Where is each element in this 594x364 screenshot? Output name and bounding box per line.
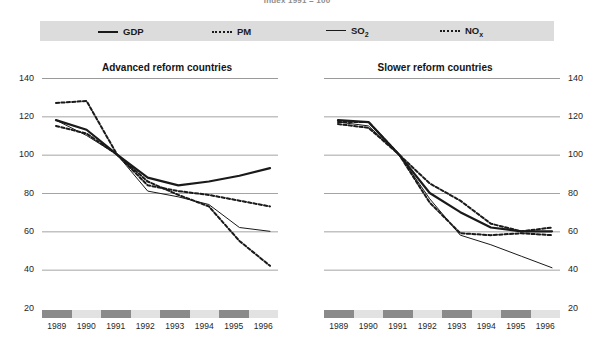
x-axis-band-segment-1996 (249, 310, 279, 318)
legend-swatch-nox-icon (440, 26, 460, 35)
x-axis-band-segment-1995 (219, 310, 249, 318)
y-axis-tick-20: 20 (568, 304, 578, 313)
x-axis-band-segment-1993 (442, 310, 472, 318)
x-axis-band-segment-1991 (101, 310, 131, 318)
legend-label-so2-sub: 2 (365, 30, 369, 37)
plot-svg-advanced (42, 78, 278, 308)
x-axis-label-1994: 1994 (190, 320, 220, 332)
y-axis-tick-60: 60 (568, 227, 578, 236)
x-axis-label-1991: 1991 (101, 320, 131, 332)
series-line-gdp (56, 120, 270, 185)
legend-label-gdp: GDP (123, 26, 144, 37)
x-axis-band-segment-1994 (190, 310, 220, 318)
series-line-nox (338, 124, 552, 235)
x-axis-label-1990: 1990 (72, 320, 102, 332)
x-axis-band-segment-1990 (72, 310, 102, 318)
x-axis-band-segment-1994 (472, 310, 502, 318)
y-axis-tick-40: 40 (24, 265, 34, 274)
y-axis-tick-140: 140 (568, 74, 583, 83)
chart-legend: GDP PM SO2 NOx (40, 21, 554, 41)
series-line-pm (338, 122, 552, 231)
plot-area-slower (324, 78, 560, 308)
legend-label-nox-sub: x (479, 30, 483, 37)
y-axis-labels-left-outer: 14012010080604020 (16, 78, 38, 308)
x-axis-label-1991: 1991 (383, 320, 413, 332)
legend-item-pm: PM (212, 26, 326, 37)
x-axis-band-segment-1993 (160, 310, 190, 318)
legend-swatch-so2-icon (326, 26, 346, 35)
x-axis-band-segment-1992 (413, 310, 443, 318)
x-axis-band-segment-1991 (383, 310, 413, 318)
x-axis-band-segment-1992 (131, 310, 161, 318)
legend-label-so2-text: SO (351, 25, 365, 36)
legend-label-nox-text: NO (465, 25, 479, 36)
plot-svg-slower (324, 78, 560, 308)
x-axis-band-segment-1995 (501, 310, 531, 318)
series-line-so2 (338, 122, 552, 268)
plot-area-advanced (42, 78, 278, 308)
x-axis-labels-slower: 19891990199119921993199419951996 (324, 320, 560, 332)
x-axis-label-1996: 1996 (249, 320, 279, 332)
y-axis-tick-140: 140 (19, 74, 34, 83)
y-axis-tick-20: 20 (24, 304, 34, 313)
x-axis-label-1995: 1995 (219, 320, 249, 332)
x-axis-band-segment-1996 (531, 310, 561, 318)
legend-label-pm: PM (237, 26, 251, 37)
y-axis-tick-80: 80 (568, 189, 578, 198)
y-axis-labels-right-outer: 14012010080604020 (564, 78, 590, 308)
x-axis-band-segment-1989 (42, 310, 72, 318)
legend-swatch-pm-icon (212, 27, 232, 36)
y-axis-tick-120: 120 (568, 112, 583, 121)
x-axis-labels-advanced: 19891990199119921993199419951996 (42, 320, 278, 332)
x-axis-label-1994: 1994 (472, 320, 502, 332)
y-axis-labels-left-inner (274, 78, 300, 308)
x-axis-band-segment-1989 (324, 310, 354, 318)
y-axis-tick-40: 40 (568, 265, 578, 274)
y-axis-tick-80: 80 (24, 189, 34, 198)
x-axis-label-1995: 1995 (501, 320, 531, 332)
x-axis-band-slower (324, 310, 560, 318)
y-axis-tick-120: 120 (19, 112, 34, 121)
legend-item-nox: NOx (440, 25, 554, 38)
x-axis-label-1990: 1990 (354, 320, 384, 332)
panel-title-slower: Slower reform countries (306, 62, 586, 73)
panel-slower-reform: Slower reform countries 1401201008060402… (306, 62, 586, 324)
chart-page: Index 1991 = 100 GDP PM SO2 NOx Advanced… (0, 0, 594, 364)
x-axis-label-1992: 1992 (413, 320, 443, 332)
x-axis-label-1989: 1989 (324, 320, 354, 332)
y-axis-tick-60: 60 (24, 227, 34, 236)
x-axis-band-segment-1990 (354, 310, 384, 318)
x-axis-label-1996: 1996 (531, 320, 561, 332)
legend-item-gdp: GDP (98, 26, 212, 37)
chart-suptitle: Index 1991 = 100 (0, 0, 594, 5)
panel-advanced-reform: Advanced reform countries 14012010080604… (16, 62, 296, 324)
y-axis-tick-100: 100 (568, 150, 583, 159)
x-axis-label-1993: 1993 (160, 320, 190, 332)
x-axis-label-1993: 1993 (442, 320, 472, 332)
x-axis-band-advanced (42, 310, 278, 318)
legend-swatch-gdp-icon (98, 27, 118, 36)
series-line-gdp (338, 120, 552, 231)
legend-label-so2: SO2 (351, 25, 369, 38)
y-axis-tick-100: 100 (19, 150, 34, 159)
x-axis-label-1989: 1989 (42, 320, 72, 332)
series-line-nox (56, 126, 270, 266)
legend-label-nox: NOx (465, 25, 483, 38)
x-axis-label-1992: 1992 (131, 320, 161, 332)
legend-item-so2: SO2 (326, 25, 440, 38)
panel-title-advanced: Advanced reform countries (16, 62, 296, 73)
